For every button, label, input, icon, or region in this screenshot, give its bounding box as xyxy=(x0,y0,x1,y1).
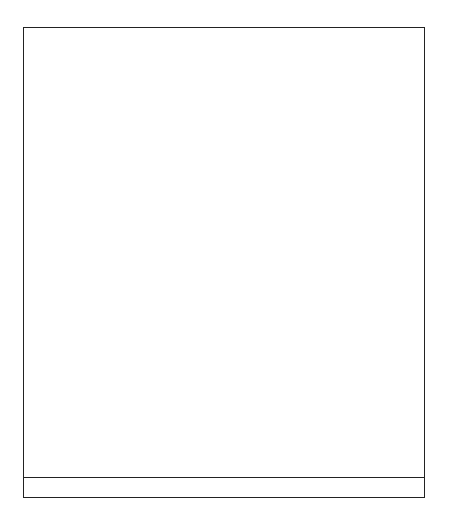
stitch-grid xyxy=(24,28,424,477)
chart-footer-strip xyxy=(23,478,425,498)
knitting-chart xyxy=(23,27,425,478)
